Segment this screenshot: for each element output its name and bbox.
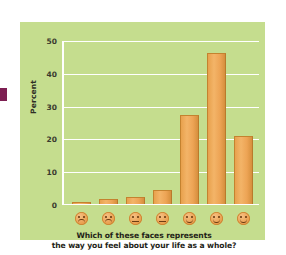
- face-neutral-icon: [156, 212, 169, 225]
- bar-1[interactable]: [72, 202, 91, 204]
- gridline-20: [62, 139, 259, 140]
- face-slightly-happy-icon: [183, 212, 196, 225]
- page-edge-mark: [0, 88, 7, 101]
- bar-4[interactable]: [153, 190, 172, 204]
- bar-3[interactable]: [126, 197, 145, 204]
- y-axis-label: Percent: [29, 80, 38, 114]
- caption-line-2: the way you feel about your life as a wh…: [38, 241, 250, 251]
- face-very-sad-icon: [75, 212, 88, 225]
- y-axis-line: [62, 41, 64, 205]
- bar-6[interactable]: [207, 53, 226, 204]
- face-sad-icon: [102, 212, 115, 225]
- y-tick-label-40: 40: [47, 69, 57, 78]
- gridline-30: [62, 107, 259, 108]
- face-happy-icon: [210, 212, 223, 225]
- chart-figure: Percent 50 40 30 20 10: [0, 0, 286, 255]
- gridline-10: [62, 172, 259, 173]
- x-axis-face-icons: [62, 212, 259, 228]
- gridline-50: [62, 41, 259, 42]
- chart-caption: Which of these faces represents the way …: [38, 231, 250, 250]
- face-very-happy-icon: [237, 212, 250, 225]
- bar-7[interactable]: [234, 136, 253, 203]
- face-slightly-sad-icon: [129, 212, 142, 225]
- plot-area: 50 40 30 20 10 0: [62, 41, 259, 205]
- y-tick-label-30: 30: [47, 102, 57, 111]
- y-tick-label-0: 0: [52, 201, 57, 210]
- y-tick-label-10: 10: [47, 168, 57, 177]
- bar-5[interactable]: [180, 115, 199, 204]
- y-tick-label-20: 20: [47, 135, 57, 144]
- caption-line-1: Which of these faces represents: [38, 231, 250, 241]
- bar-2[interactable]: [99, 199, 118, 203]
- y-tick-label-50: 50: [47, 37, 57, 46]
- chart-panel: Percent 50 40 30 20 10: [20, 22, 265, 240]
- gridline-40: [62, 74, 259, 75]
- x-axis-line: [62, 204, 259, 206]
